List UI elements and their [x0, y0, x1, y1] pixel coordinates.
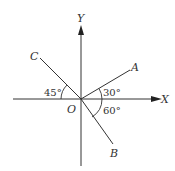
- y-axis-arrow-icon: [78, 25, 84, 35]
- label-y: Y: [77, 12, 86, 25]
- label-origin: O: [67, 103, 76, 116]
- label-a: A: [130, 61, 139, 74]
- diagram-canvas: Y X O A B C 30° 60° 45°: [0, 0, 175, 171]
- label-c: C: [30, 50, 39, 63]
- arc-45: [61, 85, 67, 99]
- vector-diagram: Y X O A B C 30° 60° 45°: [0, 0, 175, 171]
- angle-label-45: 45°: [44, 87, 62, 98]
- arc-30: [99, 89, 102, 100]
- label-x: X: [160, 93, 170, 106]
- arc-60: [92, 99, 102, 117]
- angle-label-60: 60°: [103, 105, 121, 116]
- angle-label-30: 30°: [103, 87, 121, 98]
- label-b: B: [109, 147, 118, 160]
